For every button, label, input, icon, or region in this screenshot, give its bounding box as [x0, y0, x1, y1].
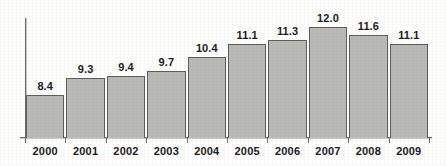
- bar: [26, 95, 64, 138]
- x-axis-tick: [146, 138, 147, 143]
- bar-value-label: 8.4: [19, 80, 71, 92]
- bar: [268, 40, 306, 138]
- x-axis-tick: [25, 138, 26, 143]
- bar-value-label: 11.3: [261, 25, 313, 37]
- bar-value-label: 10.4: [181, 42, 233, 54]
- plot-area: 8.420009.320019.420029.7200310.4200411.1…: [0, 0, 446, 166]
- x-axis-tick: [348, 138, 349, 143]
- bars-layer: 8.420009.320019.420029.7200310.4200411.1…: [0, 0, 446, 166]
- bar: [228, 44, 266, 138]
- bar: [107, 76, 145, 138]
- bar-value-label: 11.1: [383, 29, 435, 41]
- bar: [309, 27, 347, 138]
- x-axis-label: 2009: [383, 145, 435, 157]
- bar: [188, 57, 226, 138]
- x-axis-tick-end: [429, 138, 430, 143]
- bar-chart: 8.420009.320019.420029.7200310.4200411.1…: [0, 0, 446, 166]
- x-axis-tick: [267, 138, 268, 143]
- x-axis-tick: [308, 138, 309, 143]
- x-axis-tick: [106, 138, 107, 143]
- bar: [66, 78, 104, 138]
- bar-value-label: 9.7: [140, 56, 192, 68]
- x-axis-tick: [187, 138, 188, 143]
- x-axis-tick: [227, 138, 228, 143]
- bar: [390, 44, 428, 138]
- x-axis-tick: [65, 138, 66, 143]
- bar: [147, 71, 185, 138]
- bar: [349, 35, 387, 138]
- x-axis-tick: [389, 138, 390, 143]
